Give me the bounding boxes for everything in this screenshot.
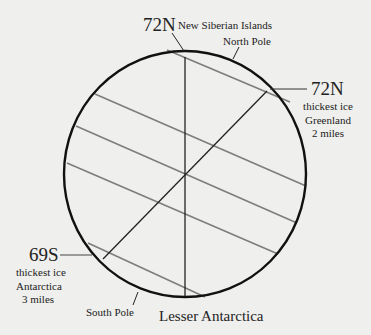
right-annotation: thickest ice Greenland 2 miles: [300, 100, 356, 141]
parallel-line: [76, 126, 297, 223]
north-pole-label: North Pole: [223, 36, 271, 47]
leader-top-72n: [172, 33, 184, 51]
parallel-line: [95, 94, 306, 186]
south-pole-label: South Pole: [86, 307, 134, 318]
bottom-place-label: Lesser Antarctica: [159, 309, 264, 324]
parallel-line: [67, 163, 278, 254]
leader-north-pole: [233, 47, 239, 59]
top-latitude-label: 72N: [143, 15, 176, 34]
top-place-label: New Siberian Islands: [178, 20, 272, 31]
parallel-line: [88, 243, 205, 297]
left-annotation-line: thickest ice: [16, 266, 72, 280]
left-annotation-line: 3 miles: [16, 293, 72, 307]
right-latitude-label: 72N: [311, 79, 344, 98]
right-annotation-line: Greenland: [300, 114, 356, 128]
left-annotation-line: Antarctica: [16, 280, 72, 294]
right-annotation-line: thickest ice: [300, 100, 356, 114]
left-annotation: thickest ice Antarctica 3 miles: [16, 266, 72, 307]
leader-south-pole: [133, 292, 138, 305]
right-annotation-line: 2 miles: [300, 127, 356, 141]
left-latitude-label: 69S: [29, 245, 59, 264]
